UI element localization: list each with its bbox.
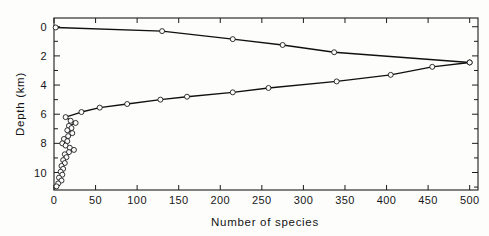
x-axis-title: Number of species [211, 216, 319, 228]
data-point-marker [185, 94, 190, 99]
data-point-marker [54, 184, 59, 189]
data-point-marker [63, 115, 68, 120]
y-tick-label: 0 [40, 21, 47, 33]
y-axis-tick-labels: 0246810 [34, 21, 47, 179]
data-point-marker [280, 42, 285, 47]
series-path [56, 27, 470, 62]
y-tick-label: 4 [40, 79, 47, 91]
y-axis-title: Depth (km) [14, 72, 26, 136]
data-point-marker [230, 37, 235, 42]
y-axis-ticks [54, 27, 478, 187]
data-point-marker [71, 147, 76, 152]
data-point-marker [334, 79, 339, 84]
series-path [56, 62, 469, 186]
plot-canvas: 050100150200250300350400450500 0246810 N… [0, 0, 489, 236]
x-axis-tick-labels: 050100150200250300350400450500 [51, 194, 480, 206]
data-point-marker [125, 102, 130, 107]
data-point-marker [53, 25, 58, 30]
data-point-marker [467, 60, 472, 65]
plot-frame [54, 18, 478, 190]
data-point-marker [65, 128, 70, 133]
data-point-markers [53, 25, 472, 189]
data-point-marker [97, 105, 102, 110]
x-tick-label: 200 [210, 194, 230, 206]
x-tick-label: 100 [127, 194, 147, 206]
x-axis-ticks [54, 18, 470, 190]
y-tick-label: 2 [40, 50, 47, 62]
data-point-marker [79, 110, 84, 115]
x-tick-label: 50 [89, 194, 102, 206]
data-point-marker [68, 118, 73, 123]
data-point-marker [160, 29, 165, 34]
data-series [56, 27, 470, 186]
x-tick-label: 0 [51, 194, 58, 206]
x-tick-label: 300 [294, 194, 314, 206]
y-tick-label: 10 [34, 167, 47, 179]
x-tick-label: 250 [252, 194, 272, 206]
data-point-marker [388, 72, 393, 77]
data-point-marker [266, 85, 271, 90]
data-point-marker [332, 50, 337, 55]
data-point-marker [73, 120, 78, 125]
data-point-marker [158, 97, 163, 102]
x-tick-label: 350 [335, 194, 355, 206]
y-tick-label: 6 [40, 108, 47, 120]
y-tick-label: 8 [40, 137, 47, 149]
x-tick-label: 500 [460, 194, 480, 206]
data-point-marker [430, 64, 435, 69]
depth-species-figure: 050100150200250300350400450500 0246810 N… [0, 0, 489, 236]
x-tick-label: 400 [377, 194, 397, 206]
data-point-marker [230, 90, 235, 95]
x-tick-label: 150 [169, 194, 189, 206]
x-tick-label: 450 [418, 194, 438, 206]
